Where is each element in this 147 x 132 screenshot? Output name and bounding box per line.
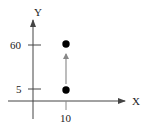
y-axis-label: Y <box>34 6 42 18</box>
point-10-5 <box>62 86 69 93</box>
plot-svg: Y X 60 5 10 <box>0 0 147 132</box>
x-tick-label-10: 10 <box>60 112 72 124</box>
diagram-canvas: Y X 60 5 10 <box>0 0 147 132</box>
x-axis-label: X <box>132 95 140 107</box>
y-tick-label-60: 60 <box>10 39 22 51</box>
y-tick-label-5: 5 <box>16 83 22 95</box>
point-10-60 <box>62 40 69 47</box>
